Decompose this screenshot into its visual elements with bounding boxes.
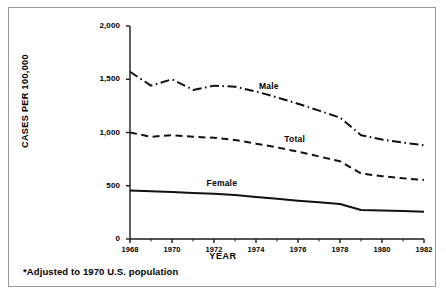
y-tick-label: 0 xyxy=(80,234,120,243)
y-tick-label: 2,000 xyxy=(80,21,120,30)
figure-footnote: *Adjusted to 1970 U.S. population xyxy=(23,266,178,277)
x-tick-label: 1974 xyxy=(236,245,276,254)
y-tick-label: 500 xyxy=(80,181,120,190)
chart-plot-area: CASES PER 100,000 YEAR 05001,0001,5002,0… xyxy=(9,8,437,288)
y-tick-label: 1,000 xyxy=(80,128,120,137)
x-tick-label: 1970 xyxy=(152,245,192,254)
x-tick-label: 1972 xyxy=(194,245,234,254)
series-line-female xyxy=(130,191,424,212)
series-label-male: Male xyxy=(258,81,280,91)
x-tick-label: 1982 xyxy=(404,245,444,254)
y-tick-label: 1,500 xyxy=(80,74,120,83)
x-tick-label: 1968 xyxy=(110,245,150,254)
x-tick-label: 1976 xyxy=(278,245,318,254)
y-axis-title: CASES PER 100,000 xyxy=(20,41,30,161)
x-tick-label: 1978 xyxy=(320,245,360,254)
series-label-female: Female xyxy=(206,178,239,188)
x-tick-label: 1980 xyxy=(362,245,402,254)
series-label-total: Total xyxy=(283,134,306,144)
figure-frame: CASES PER 100,000 YEAR 05001,0001,5002,0… xyxy=(8,7,436,287)
